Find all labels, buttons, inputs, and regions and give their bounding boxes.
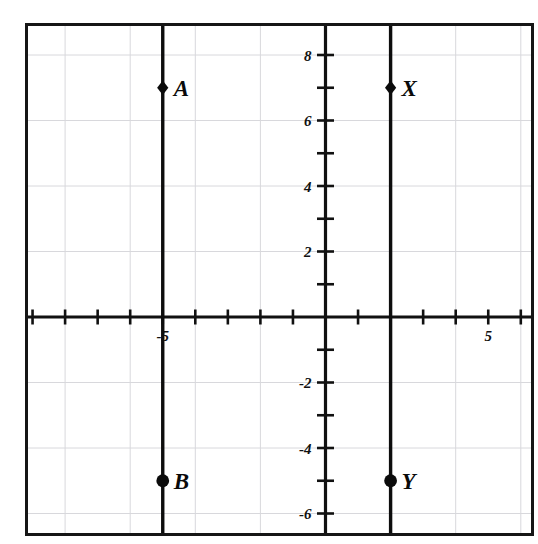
y-tick-label-8: 8 [304, 48, 312, 64]
y-tick-label-6: 6 [304, 113, 312, 129]
y-tick-label-2: 2 [303, 244, 312, 260]
y-tick-label-4: 4 [303, 179, 312, 195]
y-tick-label-neg2: -2 [299, 375, 312, 391]
point-marker-circle [384, 474, 397, 487]
point-label-y: Y [402, 469, 418, 494]
point-label-b: B [173, 469, 189, 494]
coordinate-plane-svg: 8642-2-4-6-55 AXBY [0, 0, 538, 544]
point-label-x: X [401, 76, 418, 101]
point-marker-circle [156, 474, 169, 487]
coordinate-plane-figure: 8642-2-4-6-55 AXBY [0, 0, 538, 544]
x-tick-label-5: 5 [485, 328, 493, 344]
plot-background [26, 24, 533, 535]
y-tick-label-neg4: -4 [299, 441, 312, 457]
point-label-a: A [172, 76, 189, 101]
y-tick-label-neg6: -6 [299, 506, 312, 522]
